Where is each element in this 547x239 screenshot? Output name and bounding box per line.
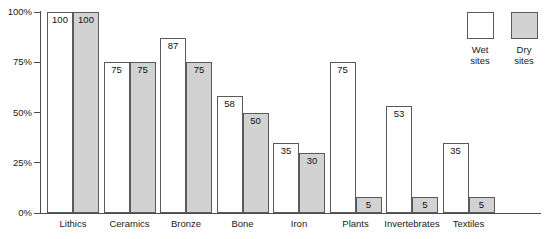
- legend-entry-dry: Drysites: [506, 12, 542, 66]
- legend-entry-wet: Wetsites: [462, 12, 498, 66]
- y-tick-label: 0%: [0, 208, 32, 218]
- bar-value-label: 35: [281, 144, 292, 156]
- bar-invertebrates-dry: 5: [412, 197, 438, 213]
- bar-group-invertebrates: 535: [386, 12, 438, 213]
- bar-plants-dry: 5: [356, 197, 382, 213]
- bar-group-plants: 755: [330, 12, 382, 213]
- bar-value-label: 5: [366, 198, 371, 210]
- legend-label-line2: sites: [462, 55, 498, 66]
- y-tick-label: 25%: [0, 158, 32, 168]
- bar-bronze-dry: 75: [186, 62, 212, 213]
- bar-value-label: 75: [337, 63, 348, 75]
- bar-group-ceramics: 7575: [104, 12, 156, 213]
- bar-value-label: 75: [137, 63, 148, 75]
- bar-ceramics-dry: 75: [130, 62, 156, 213]
- bar-textiles-wet: 35: [443, 143, 469, 213]
- bar-value-label: 30: [307, 154, 318, 166]
- y-tick-label: 100%: [0, 7, 32, 17]
- bar-bone-dry: 50: [243, 113, 269, 214]
- legend-label-line1: Dry: [506, 44, 542, 55]
- legend-swatch-wet: [467, 12, 494, 39]
- bar-value-label: 100: [52, 13, 68, 25]
- bar-value-label: 5: [422, 198, 427, 210]
- bar-invertebrates-wet: 53: [386, 106, 412, 213]
- bar-value-label: 53: [394, 107, 405, 119]
- bar-value-label: 35: [450, 144, 461, 156]
- plot-area: 1001007575877558503530755535355: [40, 12, 501, 213]
- bar-group-iron: 3530: [273, 12, 325, 213]
- y-tick-label: 75%: [0, 57, 32, 67]
- bar-iron-wet: 35: [273, 143, 299, 213]
- bar-iron-dry: 30: [299, 153, 325, 213]
- bar-lithics-dry: 100: [73, 12, 99, 213]
- category-label-textiles: Textiles: [424, 219, 514, 229]
- legend-swatch-dry: [511, 12, 538, 39]
- cropped-title-remnant: [44, 0, 244, 3]
- legend-label-line2: sites: [506, 55, 542, 66]
- bar-value-label: 50: [250, 114, 261, 126]
- bar-group-bone: 5850: [217, 12, 269, 213]
- bar-value-label: 100: [78, 13, 94, 25]
- bar-group-lithics: 100100: [47, 12, 99, 213]
- bar-group-bronze: 8775: [160, 12, 212, 213]
- legend-label-line1: Wet: [462, 44, 498, 55]
- bar-textiles-dry: 5: [469, 197, 495, 213]
- bar-chart: 0%25%50%75%100% 100100757587755850353075…: [0, 0, 547, 239]
- x-axis-line: [40, 213, 541, 214]
- bar-value-label: 58: [224, 97, 235, 109]
- bar-plants-wet: 75: [330, 62, 356, 213]
- bar-value-label: 5: [479, 198, 484, 210]
- bar-lithics-wet: 100: [47, 12, 73, 213]
- bar-value-label: 87: [168, 39, 179, 51]
- bar-value-label: 75: [111, 63, 122, 75]
- y-tick-label: 50%: [0, 108, 32, 118]
- bar-ceramics-wet: 75: [104, 62, 130, 213]
- bar-bone-wet: 58: [217, 96, 243, 213]
- bar-value-label: 75: [194, 63, 205, 75]
- bar-bronze-wet: 87: [160, 38, 186, 213]
